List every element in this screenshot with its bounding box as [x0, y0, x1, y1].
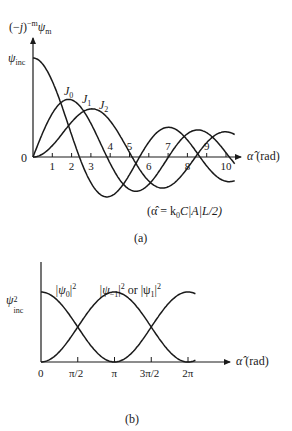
plot-b-curves: [41, 292, 195, 362]
plot-b-axes: [41, 262, 230, 362]
tick-label-b-3: 3π/2: [140, 368, 160, 379]
plot-a-x-label: α̂ (rad): [247, 150, 280, 162]
tick-label-a-10: 10: [221, 161, 232, 172]
plot-b-x-label: α̂ (rad): [236, 355, 269, 367]
plot-a-psi-inc-label: ψinc: [8, 52, 25, 67]
series-label-J2: J2: [99, 99, 108, 114]
series-label-psi0: |ψ0|2: [55, 283, 76, 299]
plot-a-origin-label: 0: [21, 152, 27, 164]
tick-label-a-8: 8: [185, 161, 191, 172]
tick-label-a-2: 2: [69, 161, 75, 172]
curve-J0: [33, 58, 235, 197]
caption-b: (b): [125, 413, 139, 425]
series-label-psi-minus1-or-psi1: |ψ−1|2 or |ψ1|2: [99, 283, 161, 299]
tick-label-a-3: 3: [88, 161, 94, 172]
plot-a-y-label: (−j)−mψm: [9, 20, 52, 36]
tick-label-b-4: 2π: [182, 368, 193, 379]
plot-a-curves: [33, 58, 235, 197]
tick-label-b-2: π: [112, 368, 118, 379]
tick-label-a-4: 4: [107, 141, 113, 152]
plot-b-psi-inc-squared-label: ψ2inc: [6, 294, 27, 306]
series-label-J0: J0: [64, 85, 73, 100]
plot-b-ticks: [78, 357, 188, 362]
tick-label-a-9: 9: [204, 141, 210, 152]
curve-psi0-squared: [41, 292, 195, 362]
caption-a: (a): [134, 232, 147, 244]
tick-label-b-0: 0: [38, 368, 44, 379]
tick-label-a-7: 7: [165, 141, 171, 152]
tick-label-a-1: 1: [50, 161, 56, 172]
plot-a-definition-note: (α̂ = k0C|A|L/2): [147, 205, 222, 220]
tick-label-b-1: π/2: [69, 368, 83, 379]
tick-label-a-5: 5: [127, 141, 133, 152]
series-label-J1: J1: [82, 93, 91, 108]
curve-psi-minus1-squared: [41, 292, 195, 362]
tick-label-a-6: 6: [146, 161, 152, 172]
